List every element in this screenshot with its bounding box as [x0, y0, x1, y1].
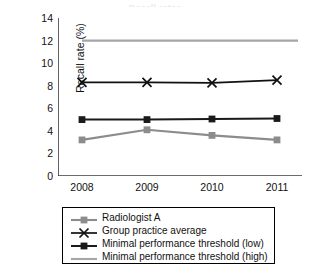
x-tick-label-2010: 2010 [200, 182, 223, 193]
chart-legend: Radiologist A Group practice average Min… [62, 207, 275, 264]
y-tick-label-4: 4 [47, 126, 53, 137]
y-tick-label-12: 12 [41, 36, 53, 47]
y-tick-label-8: 8 [47, 81, 53, 92]
recall-rate-chart-figure: Recall rates Recall rate (%) 0 2 4 6 8 1… [0, 0, 310, 274]
legend-key-gray-line-icon [71, 251, 97, 263]
series-radiologist-a [79, 126, 281, 143]
chart-title-text: Recall rates [129, 3, 182, 7]
y-tick-label-6: 6 [47, 103, 53, 114]
x-tick-label-2009: 2009 [135, 182, 158, 193]
y-tick-label-2: 2 [47, 148, 53, 159]
y-tick-label-0: 0 [47, 171, 53, 182]
x-tick-label-2008: 2008 [70, 182, 93, 193]
y-tick-label-14: 14 [41, 13, 53, 24]
legend-item-threshold-high: Minimal performance threshold (high) [71, 251, 274, 263]
legend-item-group-practice-average: Group practice average [71, 225, 274, 237]
chart-plot-svg [58, 18, 302, 176]
legend-item-radiologist-a: Radiologist A [71, 212, 274, 224]
plot-area: Recall rate (%) 0 2 4 6 8 10 12 14 2008 … [58, 18, 302, 176]
legend-label-threshold-high: Minimal performance threshold (high) [102, 251, 268, 263]
y-tick-label-10: 10 [41, 58, 53, 69]
legend-label-group-practice-average: Group practice average [102, 225, 207, 237]
legend-key-gray-square-line-icon [71, 212, 97, 224]
series-group-practice-average [78, 76, 282, 88]
chart-title-cutoff: Recall rates [0, 0, 310, 7]
legend-key-black-square-line-icon [71, 238, 97, 250]
series-threshold-low [79, 115, 281, 123]
legend-key-black-x-line-icon [71, 225, 97, 237]
x-tick-label-2011: 2011 [266, 182, 289, 193]
legend-label-threshold-low: Minimal performance threshold (low) [102, 238, 264, 250]
legend-label-radiologist-a: Radiologist A [102, 212, 160, 224]
legend-item-threshold-low: Minimal performance threshold (low) [71, 238, 274, 250]
axes [58, 18, 302, 176]
